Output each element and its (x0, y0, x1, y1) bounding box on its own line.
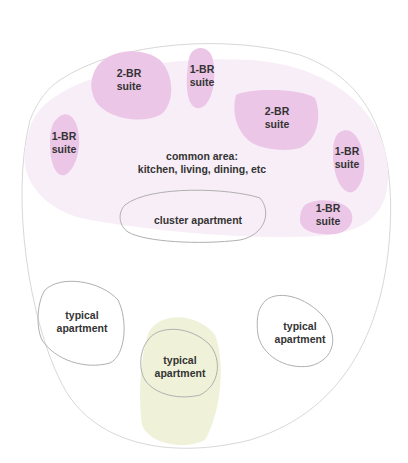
typical-apartment-label: typicalapartment (57, 309, 108, 335)
suite-label: 1-BRsuite (316, 202, 341, 228)
suite-label: 1-BRsuite (52, 130, 77, 156)
suite-label: 1-BRsuite (190, 63, 215, 89)
suite-label: 2-BRsuite (265, 105, 290, 131)
cluster-apartment-label: cluster apartment (154, 214, 242, 227)
suite-label: 2-BRsuite (117, 67, 142, 93)
typical-apartment-label: typicalapartment (275, 320, 326, 346)
highlight-region (140, 317, 221, 445)
typical-apartment-label: typicalapartment (155, 354, 206, 380)
common-area-label: common area:kitchen, living, dining, etc (138, 150, 266, 176)
suite-label: 1-BRsuite (335, 145, 360, 171)
